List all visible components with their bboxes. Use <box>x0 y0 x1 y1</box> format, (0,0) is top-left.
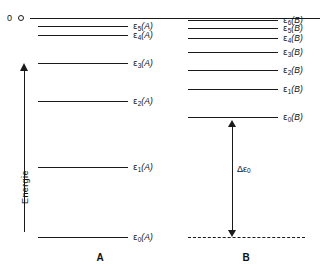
energy-level-diagram: 0 Energie ε5(A)ε4(A)ε3(A)ε2(A)ε1(A)ε0(A)… <box>0 0 326 270</box>
energy-level-line <box>38 35 128 36</box>
energy-level-label: ε2(B) <box>283 65 303 75</box>
energy-level-label: ε2(A) <box>133 96 153 106</box>
energy-level-line <box>38 101 128 102</box>
energy-level-line <box>38 237 128 238</box>
energy-level-label: ε5(B) <box>283 23 303 33</box>
energy-level-line <box>38 26 128 27</box>
delta-arrow-line <box>232 127 233 230</box>
energy-level-line <box>188 117 278 118</box>
delta-epsilon-label: Δε0 <box>237 164 251 174</box>
column-caption-a: A <box>96 252 103 263</box>
energy-level-line <box>188 52 278 53</box>
energy-level-label: ε1(B) <box>283 84 303 94</box>
delta-arrowhead-up-icon <box>228 120 236 127</box>
energy-level-label: ε1(A) <box>133 162 153 172</box>
energy-level-line <box>188 89 278 90</box>
energy-level-line <box>188 28 278 29</box>
zero-reference-line <box>30 18 320 19</box>
energy-axis-line <box>24 70 25 232</box>
energy-level-label: ε4(A) <box>133 30 153 40</box>
zero-reference-circle-icon <box>18 15 24 21</box>
dashed-baseline <box>188 237 305 238</box>
energy-level-label: ε0(B) <box>283 112 303 122</box>
delta-arrowhead-down-icon <box>228 230 236 237</box>
energy-level-line <box>188 70 278 71</box>
column-caption-b: B <box>242 252 249 263</box>
energy-level-label: ε3(A) <box>133 58 153 68</box>
energy-axis-label: Energie <box>20 170 30 204</box>
energy-level-line <box>188 20 278 21</box>
energy-level-label: ε3(B) <box>283 47 303 57</box>
energy-level-line <box>38 167 128 168</box>
zero-reference-label: 0 <box>7 13 12 23</box>
energy-level-line <box>188 38 278 39</box>
energy-level-label: ε0(A) <box>133 232 153 242</box>
energy-level-line <box>38 63 128 64</box>
energy-level-label: ε4(B) <box>283 33 303 43</box>
